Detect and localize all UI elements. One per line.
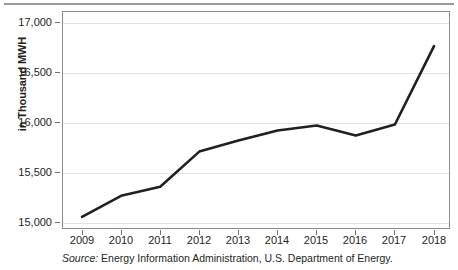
chart-figure: in Thousand MWH 17,000 16,500 16,000 15,… <box>0 0 458 270</box>
x-tick-label-2012: 2012 <box>187 235 211 246</box>
x-tick-label-2014: 2014 <box>265 235 289 246</box>
y-tick-mark-15000 <box>55 222 60 223</box>
x-tick-label-2011: 2011 <box>148 235 172 246</box>
y-tick-mark-15500 <box>55 172 60 173</box>
x-tick-label-2010: 2010 <box>109 235 133 246</box>
x-tick-label-2013: 2013 <box>226 235 250 246</box>
x-axis-labels: 2009 2010 2011 2012 2013 2014 2015 2016 … <box>0 232 458 250</box>
y-tick-label-16000: 16,000 <box>18 117 52 128</box>
y-tick-mark-16000 <box>55 122 60 123</box>
y-tick-label-15000: 15,000 <box>18 217 52 228</box>
source-label: Source: <box>62 252 98 264</box>
y-axis-labels: 17,000 16,500 16,000 15,500 15,000 <box>0 0 62 270</box>
y-tick-mark-16500 <box>55 72 60 73</box>
y-tick-label-17000: 17,000 <box>18 17 52 28</box>
x-tick-label-2017: 2017 <box>382 235 406 246</box>
y-tick-label-15500: 15,500 <box>18 167 52 178</box>
x-tick-label-2015: 2015 <box>304 235 328 246</box>
y-tick-mark-17000 <box>55 22 60 23</box>
x-tick-label-2009: 2009 <box>70 235 94 246</box>
top-divider-rule <box>4 3 454 5</box>
x-tick-label-2016: 2016 <box>343 235 367 246</box>
y-tick-label-16500: 16,500 <box>18 67 52 78</box>
x-tick-label-2018: 2018 <box>422 235 446 246</box>
data-series-line <box>62 11 450 229</box>
source-note: Source: Energy Information Administratio… <box>62 252 393 265</box>
source-attribution: Energy Information Administration, U.S. … <box>101 252 393 264</box>
